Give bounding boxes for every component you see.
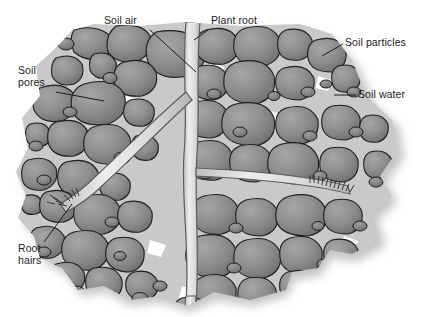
label-soil-air: Soil air [104, 15, 137, 27]
soil-diagram-figure: Soil air Plant root Soil particles Soil … [0, 0, 429, 317]
label-root-hairs-line1: Root [18, 243, 41, 255]
label-root-hairs: Root hairs [18, 243, 41, 266]
label-soil-pores: Soil pores [18, 65, 45, 88]
label-soil-pores-line1: Soil [18, 65, 45, 77]
label-plant-root: Plant root [211, 15, 257, 27]
label-soil-pores-line2: pores [18, 77, 45, 89]
label-soil-particles: Soil particles [345, 37, 406, 49]
label-soil-water: Soil water [358, 89, 405, 101]
label-root-hairs-line2: hairs [18, 255, 41, 267]
